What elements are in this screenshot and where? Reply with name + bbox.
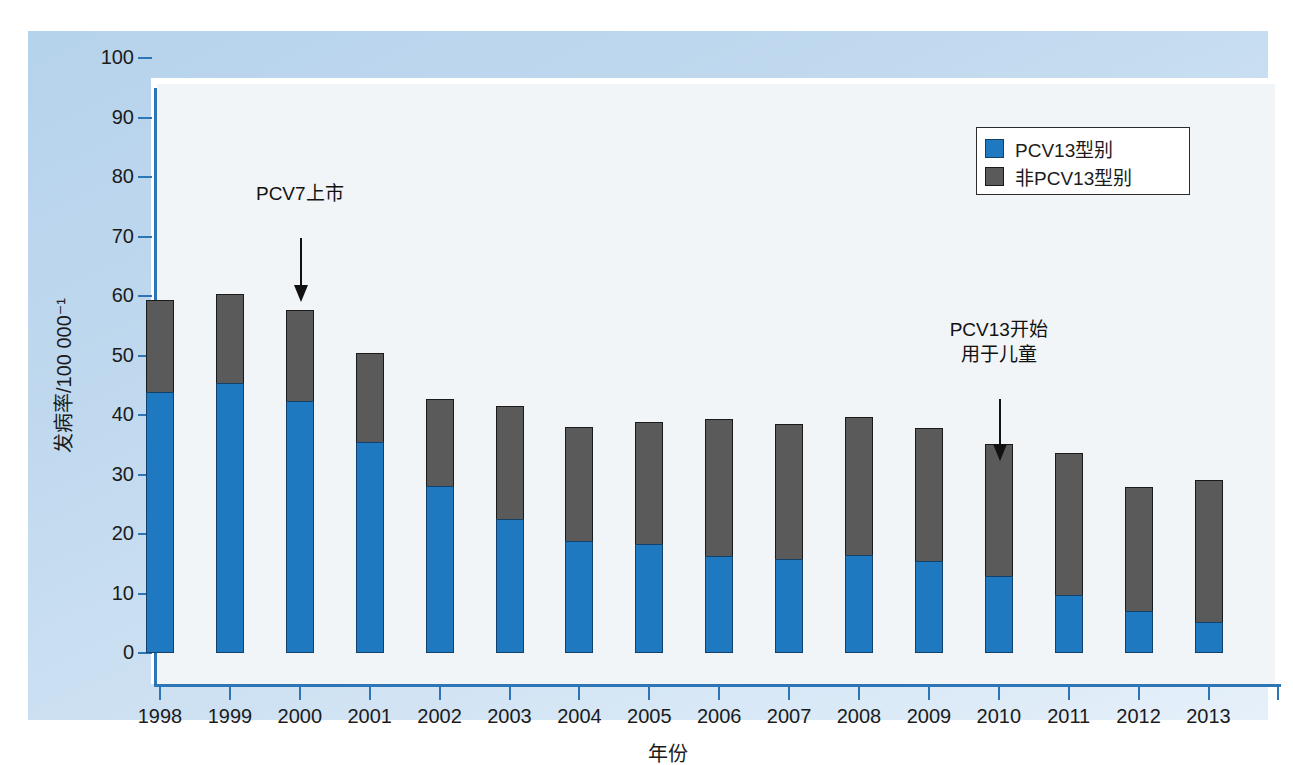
x-tick-label: 2003 bbox=[475, 705, 545, 728]
x-tick bbox=[1277, 687, 1279, 700]
x-tick-label: 2013 bbox=[1174, 705, 1244, 728]
y-tick-label: 90 bbox=[74, 107, 134, 127]
bar-segment-pcv13 bbox=[705, 556, 733, 653]
bar-segment-non-pcv13 bbox=[216, 294, 244, 384]
bar-segment-non-pcv13 bbox=[705, 419, 733, 556]
bar-segment-pcv13 bbox=[216, 383, 244, 653]
annotation-line: 用于儿童 bbox=[869, 342, 1129, 367]
legend-item-non-pcv13: 非PCV13型别 bbox=[985, 162, 1181, 190]
bar-segment-non-pcv13 bbox=[845, 417, 873, 556]
bar-segment-pcv13 bbox=[775, 559, 803, 653]
bar-segment-pcv13 bbox=[496, 519, 524, 653]
y-tick-label: 10 bbox=[74, 583, 134, 603]
x-tick-label: 1999 bbox=[195, 705, 265, 728]
x-tick bbox=[718, 687, 720, 700]
bar-segment-pcv13 bbox=[635, 544, 663, 653]
x-tick bbox=[858, 687, 860, 700]
bar-segment-pcv13 bbox=[1195, 622, 1223, 653]
legend-swatch-non-pcv13 bbox=[985, 167, 1004, 186]
x-tick-label: 2001 bbox=[335, 705, 405, 728]
bar-segment-non-pcv13 bbox=[286, 310, 314, 401]
y-tick-label: 70 bbox=[74, 226, 134, 246]
arrow-head bbox=[294, 285, 308, 302]
y-tick-label: 40 bbox=[74, 404, 134, 424]
bar-segment-pcv13 bbox=[356, 442, 384, 653]
x-tick-label: 2006 bbox=[684, 705, 754, 728]
bar-segment-non-pcv13 bbox=[426, 399, 454, 486]
x-tick bbox=[578, 687, 580, 700]
bar-segment-pcv13 bbox=[915, 561, 943, 653]
bar-segment-non-pcv13 bbox=[1055, 453, 1083, 595]
x-tick-label: 2008 bbox=[824, 705, 894, 728]
bar-segment-non-pcv13 bbox=[775, 424, 803, 559]
y-axis-title: 发病率/100 000⁻¹ bbox=[48, 246, 77, 506]
bar-segment-non-pcv13 bbox=[915, 428, 943, 561]
y-tick bbox=[138, 117, 152, 119]
bar-segment-pcv13 bbox=[565, 541, 593, 653]
x-tick bbox=[159, 687, 161, 700]
x-tick bbox=[928, 687, 930, 700]
x-tick bbox=[369, 687, 371, 700]
legend-item-pcv13: PCV13型别 bbox=[985, 134, 1181, 162]
y-tick bbox=[138, 57, 152, 59]
y-tick-label: 20 bbox=[74, 523, 134, 543]
y-tick bbox=[138, 176, 152, 178]
chart-panel: 0102030405060708090100 19981999200020012… bbox=[28, 31, 1268, 720]
y-tick-label: 50 bbox=[74, 345, 134, 365]
x-tick bbox=[1208, 687, 1210, 700]
bar-segment-pcv13 bbox=[426, 486, 454, 653]
x-tick-label: 2000 bbox=[265, 705, 335, 728]
x-tick-label: 2005 bbox=[614, 705, 684, 728]
x-tick bbox=[998, 687, 1000, 700]
x-tick bbox=[439, 687, 441, 700]
bar-segment-non-pcv13 bbox=[565, 427, 593, 540]
x-tick-label: 2007 bbox=[754, 705, 824, 728]
bar-segment-pcv13 bbox=[146, 392, 174, 653]
x-tick bbox=[648, 687, 650, 700]
legend-label-pcv13: PCV13型别 bbox=[1015, 135, 1113, 162]
bar-segment-non-pcv13 bbox=[356, 353, 384, 442]
y-tick-label: 30 bbox=[74, 464, 134, 484]
annotation-pcv13-children: PCV13开始用于儿童 bbox=[869, 317, 1129, 367]
x-tick bbox=[1138, 687, 1140, 700]
annotation-arrow-pcv13-children bbox=[999, 399, 1001, 459]
bar-segment-non-pcv13 bbox=[1195, 480, 1223, 622]
x-tick-label: 2012 bbox=[1104, 705, 1174, 728]
bar-segment-pcv13 bbox=[845, 555, 873, 653]
bar-segment-non-pcv13 bbox=[146, 300, 174, 392]
annotation-pcv7-launch: PCV7上市 bbox=[170, 181, 430, 206]
bar-segment-pcv13 bbox=[1055, 595, 1083, 653]
annotation-line: PCV7上市 bbox=[170, 181, 430, 206]
x-tick bbox=[788, 687, 790, 700]
y-tick bbox=[138, 295, 152, 297]
x-tick-label: 2010 bbox=[964, 705, 1034, 728]
annotation-arrow-pcv7-launch bbox=[300, 238, 302, 300]
y-tick bbox=[138, 236, 152, 238]
x-tick-label: 2002 bbox=[405, 705, 475, 728]
x-tick-label: 2004 bbox=[544, 705, 614, 728]
bar-segment-non-pcv13 bbox=[635, 422, 663, 544]
bar-segment-non-pcv13 bbox=[985, 444, 1013, 576]
annotation-line: PCV13开始 bbox=[869, 317, 1129, 342]
x-tick-label: 1998 bbox=[125, 705, 195, 728]
legend-label-non-pcv13: 非PCV13型别 bbox=[1015, 163, 1132, 190]
x-tick bbox=[1068, 687, 1070, 700]
bar-segment-non-pcv13 bbox=[496, 406, 524, 519]
y-tick-label: 0 bbox=[74, 642, 134, 662]
bar-segment-pcv13 bbox=[1125, 611, 1153, 653]
x-tick bbox=[229, 687, 231, 700]
bar-segment-non-pcv13 bbox=[1125, 487, 1153, 611]
legend: PCV13型别 非PCV13型别 bbox=[976, 127, 1190, 195]
x-tick-label: 2011 bbox=[1034, 705, 1104, 728]
bar-segment-pcv13 bbox=[286, 401, 314, 653]
arrow-shaft bbox=[999, 399, 1001, 445]
bar-segment-pcv13 bbox=[985, 576, 1013, 653]
arrow-shaft bbox=[300, 238, 302, 286]
arrow-head bbox=[993, 444, 1007, 461]
x-tick bbox=[299, 687, 301, 700]
x-tick-label: 2009 bbox=[894, 705, 964, 728]
legend-swatch-pcv13 bbox=[985, 139, 1004, 158]
figure-root: 0102030405060708090100 19981999200020012… bbox=[0, 0, 1293, 765]
y-tick-label: 60 bbox=[74, 285, 134, 305]
x-tick bbox=[509, 687, 511, 700]
